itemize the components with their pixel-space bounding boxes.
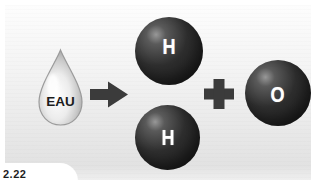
water-drop-label: EAU (46, 94, 75, 109)
plus-icon (203, 78, 235, 110)
hydrogen-atom-top: H (135, 17, 203, 85)
figure-container: EAU H H O 2.22 (0, 0, 311, 187)
hydrogen-top-label: H (162, 36, 175, 58)
hydrogen-bottom-label: H (161, 127, 174, 149)
oxygen-atom: O (245, 60, 311, 126)
arrow-right-icon (90, 81, 128, 109)
hydrogen-atom-bottom: H (135, 105, 200, 170)
water-drop: EAU (37, 48, 84, 127)
water-drop-shape (39, 50, 82, 125)
diagram-panel: EAU H H O (5, 5, 311, 180)
figure-number: 2.22 (3, 168, 26, 180)
oxygen-label: O (271, 84, 285, 106)
